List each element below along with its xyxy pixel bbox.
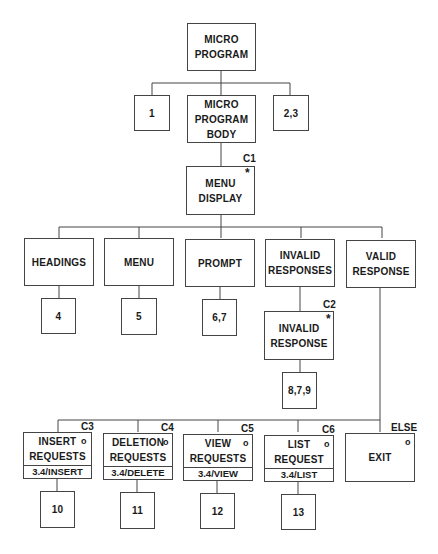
condition-label: C2 xyxy=(323,300,336,310)
node-label: MENU xyxy=(105,239,173,285)
selection-marker-icon: o xyxy=(163,438,169,447)
node-label: MICRO PROGRAM BODY xyxy=(188,96,255,142)
node-footer: 3.4/INSERT xyxy=(24,465,91,478)
iteration-marker-icon: * xyxy=(245,169,250,178)
node-label: 4 xyxy=(42,299,75,333)
node-label: VALID RESPONSE xyxy=(347,241,415,287)
node-micro-program: MICRO PROGRAM xyxy=(187,23,256,71)
condition-label: ELSE xyxy=(391,423,417,433)
node-valid-response: VALID RESPONSE xyxy=(346,240,416,288)
node-ref-11: 11 xyxy=(120,492,155,529)
iteration-marker-icon: * xyxy=(326,315,331,324)
node-ref-5: 5 xyxy=(121,298,157,335)
node-menu: MENU xyxy=(104,238,174,286)
node-label: 11 xyxy=(121,493,154,528)
node-label: VIEW REQUESTS xyxy=(184,435,252,467)
condition-label: C6 xyxy=(322,425,335,435)
node-label: MENU DISPLAY xyxy=(187,167,254,214)
node-label: 5 xyxy=(122,299,156,334)
node-ref-13: 13 xyxy=(281,494,316,530)
selection-marker-icon: o xyxy=(81,437,87,446)
node-footer: 3.4/LIST xyxy=(265,468,333,481)
selection-marker-icon: o xyxy=(324,440,330,449)
node-label: PROMPT xyxy=(186,240,254,286)
node-invalid-response: INVALID RESPONSE xyxy=(264,311,334,360)
node-label: INVALID RESPONSE xyxy=(265,312,333,359)
condition-label: C1 xyxy=(243,154,256,164)
selection-marker-icon: o xyxy=(243,439,249,448)
node-invalid-responses: INVALID RESPONSES xyxy=(265,239,335,287)
node-label: 12 xyxy=(201,494,234,528)
structure-chart: MICRO PROGRAM 1 MICRO PROGRAM BODY 2,3 C… xyxy=(0,0,438,554)
node-ref-1: 1 xyxy=(134,95,170,131)
condition-label: C3 xyxy=(81,422,94,432)
node-label: LIST REQUEST xyxy=(265,436,333,468)
node-label: 1 xyxy=(135,96,169,130)
condition-label: C4 xyxy=(161,423,174,433)
node-label: MICRO PROGRAM xyxy=(188,24,255,70)
node-label: EXIT xyxy=(346,434,414,481)
node-footer: 3.4/VIEW xyxy=(184,467,252,480)
node-ref-6-7: 6,7 xyxy=(202,299,237,336)
node-headings: HEADINGS xyxy=(24,238,94,286)
node-label: HEADINGS xyxy=(25,239,93,285)
node-ref-10: 10 xyxy=(40,491,75,528)
selection-marker-icon: o xyxy=(405,438,411,447)
node-label: 8,7,9 xyxy=(283,373,316,408)
node-label: 6,7 xyxy=(203,300,236,335)
node-prompt: PROMPT xyxy=(185,239,255,287)
node-label: 2,3 xyxy=(274,96,308,130)
node-micro-program-body: MICRO PROGRAM BODY xyxy=(187,95,256,143)
node-label: DELETION REQUESTS xyxy=(104,434,172,466)
condition-label: C5 xyxy=(241,424,254,434)
node-label: INVALID RESPONSES xyxy=(266,240,334,286)
node-label: 13 xyxy=(282,495,315,529)
node-footer: 3.4/DELETE xyxy=(104,466,172,479)
node-ref-2-3: 2,3 xyxy=(273,95,309,131)
node-label: 10 xyxy=(41,492,74,527)
node-ref-8-7-9: 8,7,9 xyxy=(282,372,317,409)
node-ref-12: 12 xyxy=(200,493,235,529)
node-ref-4: 4 xyxy=(41,298,76,334)
